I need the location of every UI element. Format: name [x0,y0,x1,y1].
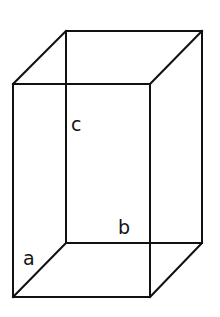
edge-depth-top-right [150,31,202,84]
edge-depth-bottom-right [150,243,202,297]
label-a: a [23,247,35,269]
label-b: b [118,216,130,238]
label-c: c [71,113,81,135]
edge-depth-bottom-left-a [13,243,66,297]
edge-depth-top-left [13,31,66,84]
back-face [66,31,202,243]
depth-edges [13,31,202,297]
cuboid-diagram: c b a [0,0,220,317]
